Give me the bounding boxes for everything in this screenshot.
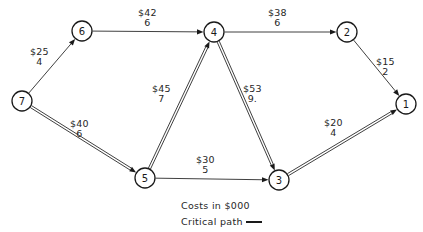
edge-duration-2-1: 2 (376, 67, 395, 77)
network-graph-canvas: 1234567 (0, 0, 423, 232)
node-label-7: 7 (19, 96, 25, 107)
node-7[interactable]: 7 (12, 91, 32, 111)
edge-stroke-critical (148, 47, 205, 168)
edge-stroke (155, 178, 262, 180)
node-3[interactable]: 3 (269, 170, 289, 190)
legend-costs-note: Costs in $000 (181, 200, 250, 211)
arrow-head-icon (262, 177, 269, 182)
edge-duration-7-6: 4 (30, 57, 49, 67)
edge-label-6-4: $426 (138, 8, 157, 28)
edge-duration-4-2: 6 (268, 18, 287, 28)
node-1[interactable]: 1 (396, 94, 416, 114)
edge-stroke-critical (151, 48, 208, 169)
edge-label-4-2: $386 (268, 8, 287, 28)
edge-5-4 (148, 41, 209, 169)
edge-duration-6-4: 6 (138, 18, 157, 28)
edge-label-5-3: $305 (196, 155, 215, 175)
edge-label-3-1: $204 (324, 118, 343, 138)
edge-duration-5-4: 7 (152, 94, 171, 104)
network-diagram: 1234567 $254$426$386$152$406$457$539.$30… (0, 0, 423, 232)
edge-4-2 (225, 29, 337, 34)
edge-stroke (92, 31, 197, 32)
node-4[interactable]: 4 (204, 22, 224, 42)
edge-label-5-4: $457 (152, 84, 171, 104)
arrow-head-icon (197, 29, 204, 34)
node-label-3: 3 (276, 175, 282, 186)
edge-7-5 (30, 106, 136, 173)
node-label-1: 1 (403, 99, 409, 110)
legend-critical-path: Critical path (181, 216, 262, 227)
edge-label-2-1: $152 (376, 57, 395, 77)
edge-label-7-5: $406 (70, 119, 89, 139)
edge-label-4-3: $539. (243, 84, 262, 104)
edge-duration-4-3: 9. (243, 94, 262, 104)
node-2[interactable]: 2 (337, 22, 357, 42)
node-label-6: 6 (79, 26, 85, 37)
edge-duration-3-1: 4 (324, 128, 343, 138)
legend-critical-path-label: Critical path (181, 216, 243, 227)
edge-duration-7-5: 6 (70, 129, 89, 139)
node-label-5: 5 (142, 173, 148, 184)
edge-4-3 (217, 41, 275, 170)
critical-path-rule-icon (246, 221, 262, 223)
edge-duration-5-3: 5 (196, 165, 215, 175)
node-5[interactable]: 5 (135, 168, 155, 188)
node-6[interactable]: 6 (72, 21, 92, 41)
node-label-4: 4 (211, 27, 217, 38)
edge-6-4 (92, 29, 203, 34)
edge-5-3 (155, 177, 268, 182)
edge-label-7-6: $254 (30, 47, 49, 67)
node-label-2: 2 (344, 27, 350, 38)
arrow-head-icon (330, 29, 337, 34)
